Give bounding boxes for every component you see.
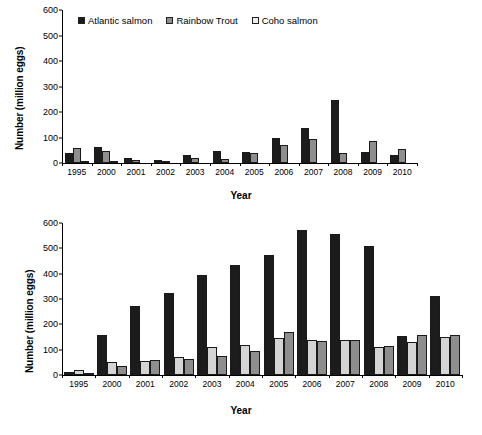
- bar-rainbow-trout: [73, 148, 81, 163]
- x-axis-label-bottom: Year: [0, 405, 482, 416]
- y-axis-label-bottom: Number (million eggs): [24, 270, 35, 373]
- bar-rainbow-trout: [284, 332, 294, 375]
- chart-panel-top: Number (million eggs) 010020030040050060…: [0, 0, 482, 205]
- bar-atlantic-salmon: [213, 151, 221, 163]
- x-tick-label: 2001: [126, 167, 145, 177]
- x-tick-mark: [62, 375, 63, 378]
- x-tick-label: 2004: [236, 379, 255, 389]
- bar-rainbow-trout: [369, 141, 377, 163]
- y-tick-mark: [59, 86, 62, 87]
- y-tick-mark: [59, 10, 62, 11]
- y-tick-mark: [59, 137, 62, 138]
- legend-item-rainbow-trout: Rainbow Trout: [166, 15, 237, 26]
- bar-group: [92, 147, 122, 163]
- bar-rainbow-trout: [150, 360, 160, 375]
- bar-rainbow-trout: [398, 149, 406, 163]
- x-tick-mark: [95, 375, 96, 378]
- x-tick-label: 2006: [303, 379, 322, 389]
- x-tick-label: 1995: [67, 167, 86, 177]
- x-tick-mark: [151, 163, 152, 166]
- y-tick-mark: [59, 248, 62, 249]
- bar-group: [121, 158, 151, 163]
- bar-group: [195, 275, 228, 375]
- bar-coho-salmon: [140, 361, 150, 375]
- bar-rainbow-trout: [250, 153, 258, 163]
- bar-atlantic-salmon: [301, 128, 309, 163]
- y-tick-mark: [59, 223, 62, 224]
- y-tick-mark: [59, 273, 62, 274]
- bar-rainbow-trout: [450, 335, 460, 375]
- chart-legend: Atlantic salmon Rainbow Trout Coho salmo…: [78, 15, 318, 26]
- chart-panel-bottom: Number (million eggs) 010020030040050060…: [0, 205, 482, 435]
- bars-container-top: [62, 10, 417, 163]
- x-tick-mark: [162, 375, 163, 378]
- bar-coho-salmon: [340, 340, 350, 375]
- bar-coho-salmon: [374, 347, 384, 375]
- x-tick-mark: [262, 375, 263, 378]
- bar-group: [229, 265, 262, 375]
- bar-rainbow-trout: [250, 351, 260, 375]
- x-tick-mark: [329, 375, 330, 378]
- bar-rainbow-trout: [221, 159, 229, 163]
- bar-atlantic-salmon: [164, 293, 174, 375]
- x-tick-label: 2007: [304, 167, 323, 177]
- bar-group: [295, 230, 328, 375]
- plot-area-top: 0100200300400500600199520002001200220032…: [62, 10, 417, 163]
- bar-atlantic-salmon: [390, 155, 398, 163]
- bar-group: [129, 306, 162, 375]
- bar-coho-salmon: [110, 161, 118, 163]
- x-tick-label: 2005: [245, 167, 264, 177]
- bar-atlantic-salmon: [130, 306, 140, 375]
- x-tick-mark: [269, 163, 270, 166]
- bar-rainbow-trout: [132, 160, 140, 163]
- bar-group: [62, 370, 95, 375]
- y-axis-label-top: Number (million eggs): [14, 47, 25, 150]
- legend-swatch-icon-atlantic-salmon: [78, 17, 85, 24]
- bar-coho-salmon: [240, 345, 250, 375]
- bar-atlantic-salmon: [361, 152, 369, 163]
- x-tick-label: 2005: [269, 379, 288, 389]
- bar-rainbow-trout: [117, 366, 127, 375]
- bar-rainbow-trout: [191, 158, 199, 163]
- bar-group: [151, 160, 181, 163]
- bar-rainbow-trout: [102, 151, 110, 163]
- bar-coho-salmon: [407, 342, 417, 375]
- x-axis-label-top: Year: [0, 190, 482, 201]
- x-tick-mark: [417, 163, 418, 166]
- bar-group: [269, 138, 299, 163]
- bar-group: [328, 100, 358, 163]
- x-tick-mark: [129, 375, 130, 378]
- bar-coho-salmon: [274, 338, 284, 375]
- bar-group: [358, 141, 388, 163]
- bar-coho-salmon: [440, 337, 450, 376]
- bar-coho-salmon: [207, 347, 217, 375]
- x-tick-mark: [195, 375, 196, 378]
- x-tick-label: 2002: [156, 167, 175, 177]
- x-tick-mark: [62, 163, 63, 166]
- x-tick-mark: [180, 163, 181, 166]
- x-tick-label: 2000: [97, 167, 116, 177]
- legend-label-atlantic-salmon: Atlantic salmon: [88, 15, 152, 26]
- bar-rainbow-trout: [417, 335, 427, 375]
- x-tick-label: 2008: [369, 379, 388, 389]
- bar-coho-salmon: [307, 340, 317, 375]
- x-tick-label: 2009: [363, 167, 382, 177]
- bar-group: [62, 148, 92, 163]
- x-tick-mark: [299, 163, 300, 166]
- bar-atlantic-salmon: [197, 275, 207, 375]
- bar-atlantic-salmon: [154, 160, 162, 163]
- bar-coho-salmon: [107, 362, 117, 375]
- bar-coho-salmon: [74, 370, 84, 375]
- x-tick-mark: [362, 375, 363, 378]
- bar-atlantic-salmon: [65, 153, 73, 163]
- x-tick-mark: [240, 163, 241, 166]
- bar-rainbow-trout: [384, 346, 394, 375]
- bar-atlantic-salmon: [97, 335, 107, 375]
- bar-atlantic-salmon: [124, 158, 132, 163]
- x-tick-label: 2001: [136, 379, 155, 389]
- bar-atlantic-salmon: [242, 152, 250, 163]
- y-tick-mark: [59, 35, 62, 36]
- x-tick-mark: [210, 163, 211, 166]
- bar-rainbow-trout: [162, 161, 170, 163]
- bar-group: [299, 128, 329, 163]
